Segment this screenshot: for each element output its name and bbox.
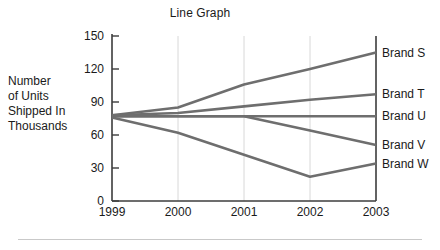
y-tick-label: 30 bbox=[76, 161, 104, 175]
y-tick-label: 120 bbox=[76, 62, 104, 76]
series-label-brand-s: Brand S bbox=[382, 46, 425, 60]
footer-divider bbox=[18, 239, 422, 240]
x-tick-label: 2001 bbox=[222, 205, 266, 219]
x-tick-label: 1999 bbox=[90, 205, 134, 219]
y-tick-label: 90 bbox=[76, 95, 104, 109]
x-tick-label: 2000 bbox=[156, 205, 200, 219]
series-label-brand-u: Brand U bbox=[382, 109, 426, 123]
series-label-brand-v: Brand V bbox=[382, 138, 425, 152]
y-tick-label: 150 bbox=[76, 29, 104, 43]
x-tick-label: 2003 bbox=[354, 205, 398, 219]
y-tick-label: 60 bbox=[76, 128, 104, 142]
x-tick-label: 2002 bbox=[288, 205, 332, 219]
series-label-brand-w: Brand W bbox=[382, 157, 429, 171]
line-graph-figure: Line Graph Number of Units Shipped In Th… bbox=[0, 0, 440, 250]
series-label-brand-t: Brand T bbox=[382, 87, 424, 101]
